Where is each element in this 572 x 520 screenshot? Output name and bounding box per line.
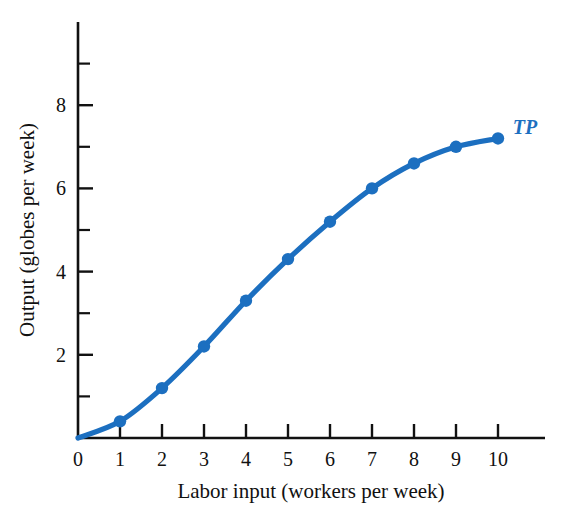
x-tick-label: 10 [488,448,508,470]
y-tick-label: 2 [56,344,66,366]
chart-canvas: 2468 012345678910 TP Labor input (worker… [0,0,572,520]
x-tick-label: 1 [115,448,125,470]
x-tick-label: 8 [409,448,419,470]
y-tick-label: 6 [56,177,66,199]
tp-data-point [450,141,462,153]
x-tick-label: 9 [451,448,461,470]
y-tick-label: 8 [56,94,66,116]
y-axis-title: Output (globes per week) [15,123,39,337]
total-product-chart: 2468 012345678910 TP Labor input (worker… [0,0,572,520]
tp-data-point [240,295,252,307]
x-tick-label: 0 [73,448,83,470]
tp-data-point [198,340,210,352]
y-tick-label: 4 [56,261,66,283]
x-axis-title: Labor input (workers per week) [177,479,444,503]
tp-data-point [324,215,336,227]
tp-data-point [492,132,504,144]
x-tick-label: 7 [367,448,377,470]
tp-data-point [114,415,126,427]
x-tick-label: 6 [325,448,335,470]
tp-data-point [366,182,378,194]
tp-series-label: TP [513,116,538,138]
x-tick-label: 5 [283,448,293,470]
x-tick-label: 3 [199,448,209,470]
tp-data-point [408,157,420,169]
tp-data-point [156,382,168,394]
tp-data-point [282,253,294,265]
x-tick-label: 4 [241,448,251,470]
x-tick-label: 2 [157,448,167,470]
